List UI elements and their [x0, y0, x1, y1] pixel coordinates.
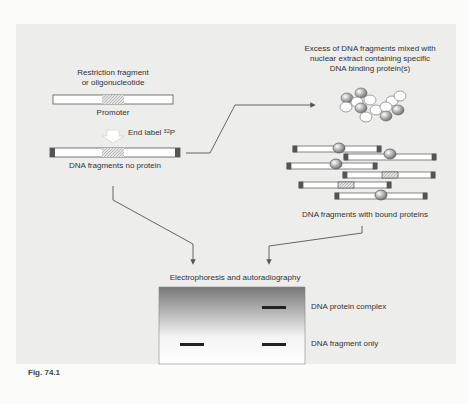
restriction-fragment [53, 95, 173, 104]
label-line: or oligonucleotide [58, 78, 168, 88]
label-restriction-fragment: Restriction fragment or oligonucleotide [58, 68, 168, 88]
label-excess-dna: Excess of DNA fragments mixed with nucle… [290, 44, 450, 74]
isotope-element: P [170, 128, 175, 137]
label-dna-bound: DNA fragments with bound proteins [290, 210, 440, 220]
label-line: Excess of DNA fragments mixed with [290, 44, 450, 54]
band-free-left [180, 343, 204, 346]
down-arrow-icon [102, 130, 124, 143]
label-complex: DNA protein complex [311, 302, 386, 312]
protein-cluster [340, 88, 406, 122]
label-line: nuclear extract containing specific [290, 54, 450, 64]
bound-fragments [287, 143, 436, 200]
figure-caption: Fig. 74.1 [28, 368, 60, 377]
label-end-label: End label 32P [128, 128, 175, 138]
arrow-right-to-gel [269, 226, 362, 262]
label-line: DNA binding protein(s) [290, 64, 450, 74]
band-complex [262, 306, 286, 309]
label-line: Restriction fragment [58, 68, 168, 78]
arrow-left-to-gel [113, 186, 193, 262]
gel [159, 287, 305, 364]
label-electrophoresis: Electrophoresis and autoradiography [155, 273, 315, 283]
band-free-right [262, 343, 286, 346]
label-fragment-only: DNA fragment only [311, 339, 378, 349]
end-labelled-fragment [50, 148, 180, 157]
label-dna-no-protein: DNA fragments no protein [55, 161, 175, 171]
end-label-text: End label [128, 128, 161, 137]
label-promoter: Promoter [88, 108, 138, 118]
